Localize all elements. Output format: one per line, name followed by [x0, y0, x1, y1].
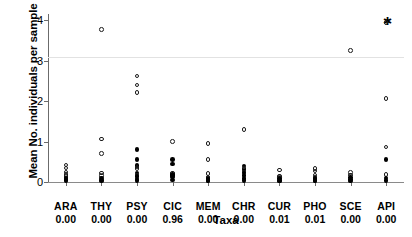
y-tick-mark: [44, 182, 48, 183]
data-point: [135, 83, 140, 88]
data-point: [170, 162, 175, 167]
x-category-name: API: [363, 200, 409, 213]
y-tick-label: 1: [37, 134, 43, 150]
data-point: [170, 139, 175, 144]
data-point: [64, 178, 69, 183]
data-point: [242, 178, 247, 183]
x-tick-mark: [173, 182, 174, 186]
y-tick-mark: [44, 101, 48, 102]
data-point: [206, 141, 211, 146]
y-tick-mark: [44, 61, 48, 62]
scatter-plot-figure: Mean No. individuals per sample 01234 ✱ …: [0, 0, 412, 237]
data-point: [135, 74, 140, 79]
data-point: [135, 147, 140, 152]
data-point: [384, 96, 389, 101]
data-point: [242, 127, 247, 132]
data-point: [277, 168, 282, 173]
data-point: [348, 48, 353, 53]
y-tick-label: 0: [37, 174, 43, 190]
gridline: [48, 57, 404, 58]
y-tick-mark: [44, 142, 48, 143]
y-tick-label: 4: [37, 12, 43, 28]
y-tick-mark: [44, 20, 48, 21]
data-point: [206, 157, 211, 162]
y-tick-label: 2: [37, 93, 43, 109]
data-point: [170, 178, 175, 183]
data-point: [135, 157, 140, 162]
data-point: [135, 90, 140, 95]
data-point: [384, 157, 389, 162]
x-axis-title: Taxa: [48, 214, 404, 226]
data-point: [99, 137, 104, 142]
data-point: [99, 151, 104, 156]
data-point: [99, 27, 104, 32]
y-tick-label: 3: [37, 53, 43, 69]
y-axis-line: [48, 14, 49, 182]
plot-area: 01234 ✱ ARA0.00THY0.00PSY0.00CIC0.96MEM0…: [48, 14, 404, 182]
data-point: [384, 145, 389, 150]
